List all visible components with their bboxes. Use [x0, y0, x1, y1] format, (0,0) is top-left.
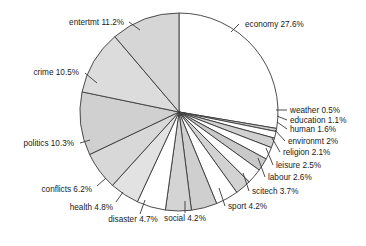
leader-line-health [116, 192, 123, 202]
pie-label-health: health 4.8% [70, 203, 113, 212]
leader-line-environmt [275, 130, 285, 141]
pie-label-social: social 4.2% [164, 214, 206, 223]
leader-line-human [277, 122, 287, 129]
pie-label-environmt: environmt 2% [288, 137, 338, 146]
pie-label-economy: economy 27.6% [245, 20, 304, 29]
pie-label-weather: weather 0.5% [289, 106, 340, 115]
pie-label-scitech: scitech 3.7% [252, 187, 298, 196]
pie-label-crime: crime 10.5% [33, 68, 79, 77]
pie-label-labour: labour 2.6% [268, 173, 312, 182]
pie-label-disaster: disaster 4.7% [108, 215, 158, 224]
pie-label-religion: religion 2.1% [283, 148, 330, 157]
pie-slice-economy[interactable] [179, 13, 278, 128]
pie-slices [80, 13, 278, 211]
leader-line-education [277, 116, 287, 120]
pie-label-human: human 1.6% [290, 125, 336, 134]
pie-label-politics: politics 10.3% [23, 139, 74, 148]
pie-label-sport: sport 4.2% [228, 202, 267, 211]
pie-chart-page: economy 27.6%weather 0.5%education 1.1%h… [0, 0, 366, 246]
pie-label-education: education 1.1% [290, 116, 346, 125]
leader-line-religion [272, 138, 280, 152]
pie-label-entertmt: entertmt 11.2% [69, 18, 124, 27]
leader-line-conflicts [97, 178, 106, 186]
pie-chart: economy 27.6%weather 0.5%education 1.1%h… [0, 0, 366, 246]
pie-label-leisure: leisure 2.5% [276, 161, 321, 170]
pie-label-conflicts: conflicts 6.2% [41, 185, 92, 194]
